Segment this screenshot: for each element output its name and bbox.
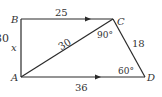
angle-label-d: 60° — [118, 66, 134, 76]
edge-label-ab: x — [11, 42, 17, 53]
angle-label-c: 90° — [97, 30, 113, 40]
edge-label-ad: 36 — [75, 82, 88, 93]
edge-label-ac: 30 — [56, 36, 73, 52]
vertex-label-c: C — [117, 16, 125, 27]
parallel-arrow-icon — [85, 17, 91, 22]
edge-label-bc: 25 — [55, 7, 68, 18]
vertex-label-a: A — [10, 72, 18, 83]
vertex-label-d: D — [146, 72, 155, 83]
vertex-label-b: B — [10, 14, 18, 25]
cropped-label-fragment: 30 — [0, 32, 9, 45]
trapezoid-diagram: B A C D 25 36 30 18 x 90° 60° 30 — [0, 0, 162, 97]
edge-label-cd: 18 — [132, 38, 145, 49]
parallel-arrow-icon — [95, 75, 101, 80]
